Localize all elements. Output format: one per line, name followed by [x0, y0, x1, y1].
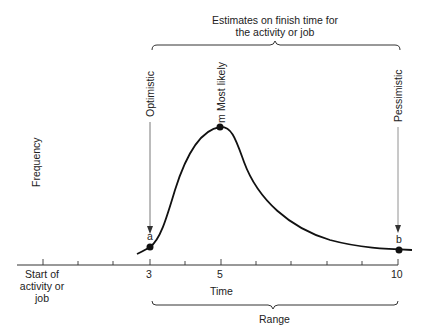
pessimistic-arrow-icon	[395, 225, 401, 233]
most-likely-label: Most likely	[215, 62, 227, 111]
start-label-line-1: Start of	[12, 268, 72, 280]
title-line-1: Estimates on finish time for	[200, 14, 350, 26]
title-line-2: the activity or job	[200, 26, 350, 38]
tick-label-3: 3	[146, 268, 152, 280]
point-a-label: a	[147, 230, 153, 242]
start-label-line-2: activity or	[12, 280, 72, 292]
time-axis-label: Time	[210, 285, 233, 297]
start-label: Start of activity or job	[12, 268, 72, 304]
optimistic-label: Optimistic	[144, 71, 156, 117]
diagram-title: Estimates on finish time for the activit…	[200, 14, 350, 38]
top-brace	[152, 41, 400, 50]
tick-label-10: 10	[391, 268, 403, 280]
range-label: Range	[259, 313, 290, 325]
point-m-label: m	[215, 114, 227, 123]
tick-label-5: 5	[217, 268, 223, 280]
frequency-axis-label: Frequency	[30, 137, 42, 187]
start-label-line-3: job	[12, 292, 72, 304]
pessimistic-label: Pessimistic	[392, 69, 404, 122]
point-b-label: b	[396, 233, 402, 245]
point-m-marker	[217, 124, 224, 131]
range-brace	[152, 301, 398, 309]
axis-ticks	[43, 259, 398, 265]
distribution-curve	[137, 127, 412, 254]
point-a-marker	[147, 244, 154, 251]
point-b-marker	[396, 247, 403, 254]
